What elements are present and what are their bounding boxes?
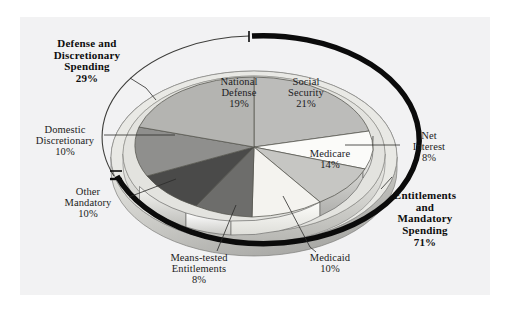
slice-label-domestic-line2: Discretionary [36,135,94,146]
group-label-entitlements-line4: Spending [402,224,448,236]
slice-label-social-security-pct: 21% [272,98,340,109]
slice-label-means-line1: Means-tested [170,252,227,263]
slice-label-other-line1: Other [76,186,100,197]
slice-label-domestic-discretionary: Domestic Discretionary 10% [26,124,104,157]
slice-label-net-interest-line1: Net [421,130,436,141]
slice-label-medicaid-line1: Medicaid [310,252,350,263]
slice-label-means-tested: Means-tested Entitlements 8% [150,252,248,285]
slice-label-means-pct: 8% [150,274,248,285]
group-label-defense-line3: Spending [64,60,110,72]
group-label-defense-line1: Defense and [57,37,116,49]
group-label-entitlements-line1: Entitlements [394,189,456,201]
slice-label-other-pct: 10% [48,208,128,219]
slice-label-national-defense: National Defense 19% [204,76,274,109]
slice-label-domestic-line1: Domestic [44,124,85,135]
slice-label-means-line2: Entitlements [172,263,226,274]
slice-label-medicare-pct: 14% [296,159,364,170]
slice-label-social-security-line2: Security [288,87,324,98]
slice-label-net-interest: Net Interest 8% [396,130,462,163]
slice-label-medicaid: Medicaid 10% [286,252,374,274]
group-label-defense-line2: Discretionary [54,49,121,61]
slice-label-domestic-pct: 10% [26,146,104,157]
slice-label-net-interest-pct: 8% [396,152,462,163]
slice-label-national-defense-pct: 19% [204,98,274,109]
slice-label-medicaid-pct: 10% [286,263,374,274]
slice-label-other-mandatory: Other Mandatory 10% [48,186,128,219]
group-label-entitlements-line2: and [416,201,434,213]
group-label-entitlements-pct: 71% [372,237,478,249]
slice-label-net-interest-line2: Interest [413,141,445,152]
group-label-defense-discretionary: Defense and Discretionary Spending 29% [28,38,146,85]
slice-label-other-line2: Mandatory [65,197,112,208]
slice-label-social-security: Social Security 21% [272,76,340,109]
group-label-entitlements-mandatory: Entitlements and Mandatory Spending 71% [372,190,478,248]
chart-page: National Defense 19% Social Security 21%… [0,0,508,309]
slice-label-national-defense-line2: Defense [221,87,256,98]
slice-label-medicare: Medicare 14% [296,148,364,170]
slice-label-national-defense-line1: National [221,76,258,87]
group-label-entitlements-line3: Mandatory [398,212,453,224]
slice-label-social-security-line1: Social [293,76,320,87]
group-label-defense-pct: 29% [28,73,146,85]
slice-label-medicare-line1: Medicare [310,148,350,159]
